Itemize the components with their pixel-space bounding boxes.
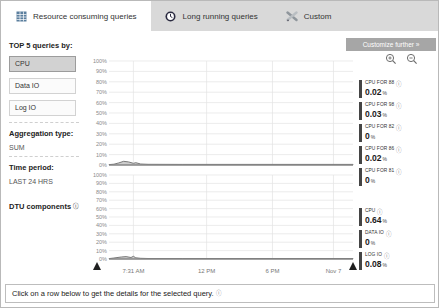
legend-value: 0% — [365, 238, 392, 248]
legend-entry-log-io[interactable]: LOG IOⓘ 0.08% — [359, 252, 437, 270]
zoom-out-icon[interactable] — [406, 53, 418, 65]
dtu-components-label: DTU componentsⓘ — [9, 202, 87, 211]
metric-button-cpu[interactable]: CPU — [9, 56, 76, 72]
svg-text:10%: 10% — [96, 152, 107, 158]
query-performance-insight-panel: Resource consuming queries Long running … — [0, 0, 439, 308]
tab-resource-consuming-queries[interactable]: Resource consuming queries — [1, 1, 151, 31]
svg-text:6 PM: 6 PM — [265, 268, 279, 274]
divider — [9, 122, 79, 123]
legend-color-bar — [359, 124, 362, 142]
legend-name: CPU FOR 82ⓘ — [365, 124, 402, 132]
svg-text:80%: 80% — [96, 79, 107, 85]
svg-text:60%: 60% — [96, 206, 107, 212]
charts-area: 100%90%80%70%60%50%40%30%20%10%0% 100%90… — [89, 57, 357, 281]
svg-text:40%: 40% — [96, 222, 107, 228]
svg-text:70%: 70% — [96, 197, 107, 203]
sidebar: TOP 5 queries by: CPU Data IO Log IO Agg… — [9, 39, 87, 211]
svg-text:60%: 60% — [96, 100, 107, 106]
dtu-components-legend: CPUⓘ 0.64% DATA IOⓘ 0% LOG IOⓘ 0.08% — [359, 208, 437, 274]
time-range-handle-left[interactable] — [93, 262, 101, 270]
svg-text:100%: 100% — [93, 172, 107, 178]
svg-text:12 PM: 12 PM — [198, 268, 215, 274]
info-icon: ⓘ — [396, 81, 402, 87]
aggregation-type-value: SUM — [9, 144, 87, 151]
svg-text:20%: 20% — [96, 239, 107, 245]
divider — [9, 156, 79, 157]
aggregation-type-label: Aggregation type: — [9, 129, 87, 138]
svg-text:100%: 100% — [93, 58, 107, 64]
svg-text:30%: 30% — [96, 231, 107, 237]
time-range-handle-right[interactable] — [349, 262, 357, 270]
metric-button-log-io[interactable]: Log IO — [9, 100, 76, 116]
time-period-label: Time period: — [9, 163, 87, 172]
footer-instruction: Click on a row below to get the details … — [5, 284, 435, 303]
dtu-components-chart: 100%90%80%70%60%50%40%30%20%10%0%7:31 AM… — [89, 171, 357, 281]
svg-text:70%: 70% — [96, 89, 107, 95]
tab-label: Custom — [304, 12, 332, 21]
legend-name: CPU FOR 81ⓘ — [365, 168, 402, 176]
svg-text:0%: 0% — [99, 256, 107, 262]
legend-color-bar — [359, 168, 362, 186]
legend-value: 0.64% — [365, 216, 387, 226]
info-icon: ⓘ — [396, 125, 402, 131]
zoom-controls — [385, 53, 418, 65]
legend-entry-query-2[interactable]: CPU FOR 98ⓘ 0.03% — [359, 102, 437, 120]
legend-entry-query-4[interactable]: CPU FOR 86ⓘ 0.02% — [359, 146, 437, 164]
grid-icon — [15, 10, 27, 22]
legend-value: 0.03% — [365, 110, 402, 120]
legend-color-bar — [359, 230, 362, 248]
svg-text:30%: 30% — [96, 131, 107, 137]
svg-text:40%: 40% — [96, 120, 107, 126]
info-icon: ⓘ — [216, 290, 222, 296]
info-icon: ⓘ — [396, 169, 402, 175]
customize-further-button[interactable]: Customize further » — [346, 38, 436, 51]
tab-long-running-queries[interactable]: Long running queries — [151, 1, 272, 31]
time-period-value: LAST 24 HRS — [9, 178, 87, 185]
tools-icon — [286, 10, 298, 22]
clock-icon — [165, 10, 177, 22]
top5-queries-label: TOP 5 queries by: — [9, 41, 87, 50]
tab-label: Resource consuming queries — [33, 12, 137, 21]
legend-color-bar — [359, 80, 362, 98]
legend-color-bar — [359, 252, 362, 270]
legend-value: 0% — [365, 176, 402, 186]
svg-text:80%: 80% — [96, 189, 107, 195]
svg-text:Nov 7: Nov 7 — [326, 268, 342, 274]
legend-color-bar — [359, 208, 362, 226]
info-icon: ⓘ — [384, 253, 390, 259]
legend-value: 0.02% — [365, 88, 402, 98]
info-icon: ⓘ — [396, 147, 402, 153]
legend-entry-query-5[interactable]: CPU FOR 81ⓘ 0% — [359, 168, 437, 186]
info-icon: ⓘ — [73, 203, 79, 209]
svg-text:20%: 20% — [96, 141, 107, 147]
top-queries-legend: CPU FOR 88ⓘ 0.02% CPU FOR 98ⓘ 0.03% CPU … — [359, 80, 437, 190]
svg-text:50%: 50% — [96, 214, 107, 220]
tab-custom[interactable]: Custom — [272, 1, 346, 31]
info-icon: ⓘ — [396, 103, 402, 109]
legend-color-bar — [359, 102, 362, 120]
zoom-in-icon[interactable] — [385, 53, 397, 65]
svg-text:90%: 90% — [96, 68, 107, 74]
metric-button-data-io[interactable]: Data IO — [9, 78, 76, 94]
legend-value: 0% — [365, 132, 402, 142]
svg-text:50%: 50% — [96, 110, 107, 116]
info-icon: ⓘ — [386, 231, 392, 237]
tab-bar: Resource consuming queries Long running … — [1, 1, 438, 31]
svg-text:0%: 0% — [99, 162, 107, 168]
legend-entry-cpu[interactable]: CPUⓘ 0.64% — [359, 208, 437, 226]
tab-label: Long running queries — [183, 12, 258, 21]
svg-text:10%: 10% — [96, 248, 107, 254]
legend-value: 0.08% — [365, 260, 390, 270]
legend-entry-query-3[interactable]: CPU FOR 82ⓘ 0% — [359, 124, 437, 142]
legend-entry-query-1[interactable]: CPU FOR 88ⓘ 0.02% — [359, 80, 437, 98]
svg-text:7:31 AM: 7:31 AM — [122, 268, 144, 274]
legend-entry-data-io[interactable]: DATA IOⓘ 0% — [359, 230, 437, 248]
legend-value: 0.02% — [365, 154, 402, 164]
top-queries-chart: 100%90%80%70%60%50%40%30%20%10%0% — [89, 57, 357, 171]
svg-text:90%: 90% — [96, 180, 107, 186]
legend-color-bar — [359, 146, 362, 164]
